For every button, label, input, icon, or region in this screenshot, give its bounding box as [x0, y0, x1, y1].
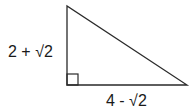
right-triangle [67, 6, 187, 85]
vertical-leg-label: 2 + √2 [8, 44, 53, 60]
horizontal-leg-label: 4 - √2 [106, 93, 147, 109]
right-angle-marker [67, 74, 78, 85]
